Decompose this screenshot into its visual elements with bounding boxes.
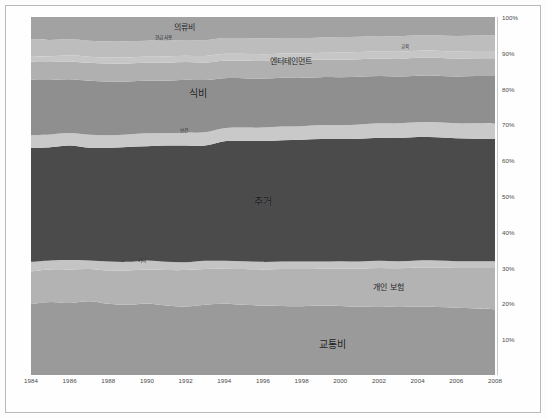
chart-page: 교통비개인 보험기타주거보건식비엔터테인먼트교육현금 사용의류비 10%20%3…: [0, 0, 547, 419]
y-tick-label: 80%: [502, 85, 515, 92]
y-tick-label: 10%: [502, 336, 515, 343]
x-tick-label: 1998: [295, 377, 309, 384]
x-tick-label: 2000: [333, 377, 347, 384]
x-tick-label: 1986: [63, 377, 77, 384]
stacked-area-chart: 교통비개인 보험기타주거보건식비엔터테인먼트교육현금 사용의류비: [31, 17, 495, 375]
y-axis-rule: [497, 17, 498, 375]
y-tick-label: 90%: [502, 49, 515, 56]
y-tick-label: 20%: [502, 300, 515, 307]
x-tick-label: 1994: [217, 377, 231, 384]
y-tick-label: 50%: [502, 193, 515, 200]
x-tick-label: 2006: [449, 377, 463, 384]
x-tick-label: 2004: [411, 377, 425, 384]
y-tick-label: 40%: [502, 228, 515, 235]
x-tick-label: 1990: [140, 377, 154, 384]
x-tick-label: 1996: [256, 377, 270, 384]
y-tick-label: 100%: [502, 14, 518, 21]
x-tick-label: 1992: [179, 377, 193, 384]
y-axis: 10%20%30%40%50%60%70%80%90%100%: [499, 17, 543, 375]
y-tick-label: 60%: [502, 157, 515, 164]
y-tick-label: 30%: [502, 264, 515, 271]
y-tick-label: 70%: [502, 121, 515, 128]
x-tick-label: 1988: [101, 377, 115, 384]
x-tick-label: 2002: [372, 377, 386, 384]
chart-plot-svg: [31, 17, 495, 375]
x-axis: 1984198619881990199219941996199820002002…: [31, 377, 495, 393]
area-band-4: [31, 137, 495, 262]
area-band-1: [31, 301, 495, 375]
x-tick-label: 1984: [24, 377, 38, 384]
x-tick-label: 2008: [488, 377, 502, 384]
